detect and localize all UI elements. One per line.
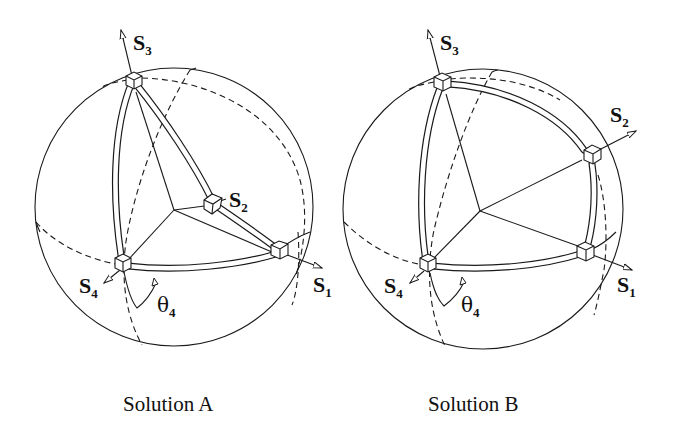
label-s2: S2 [610, 102, 629, 130]
axis-s4 [104, 270, 120, 283]
link-s3-s4 [115, 82, 132, 262]
figure-solution-b: S3 S2 S1 S4 θ4 [343, 30, 636, 349]
label-s1: S1 [313, 272, 332, 300]
caption-solution-b: Solution B [428, 392, 518, 417]
diagram-canvas: S3 S2 S1 S4 θ4 [0, 0, 673, 424]
radius-s4 [432, 211, 480, 260]
great-circle-dashed [344, 222, 425, 265]
axis-s1 [590, 254, 632, 270]
angle-arrow-theta4 [460, 277, 466, 285]
link-s4-s1 [128, 254, 276, 268]
radius-s3 [446, 94, 480, 211]
label-theta4: θ4 [461, 293, 480, 320]
joint-s2 [584, 145, 601, 164]
joint-s3 [126, 72, 142, 89]
caption-solution-a: Solution A [123, 392, 213, 417]
label-s2: S2 [229, 187, 248, 215]
label-s4: S4 [79, 273, 98, 301]
joint-s1 [577, 242, 594, 261]
label-s3: S3 [133, 30, 152, 58]
figure-solution-a: S3 S2 S1 S4 θ4 [35, 30, 332, 346]
angle-arc-theta4 [124, 272, 156, 308]
meridian-front [492, 70, 498, 72]
link-s3-s2 [136, 84, 212, 200]
radius-s2 [480, 160, 582, 211]
label-theta4: θ4 [157, 293, 176, 320]
joint-s1 [271, 241, 288, 259]
joint-s3 [434, 73, 451, 91]
axis-s4 [410, 271, 424, 283]
great-circle-dashed [36, 222, 122, 265]
joint-s4 [115, 254, 131, 272]
label-s1: S1 [617, 272, 636, 300]
angle-arc-theta4 [430, 273, 464, 306]
angle-arrow-theta4 [152, 278, 158, 286]
axis-s3 [121, 30, 133, 80]
radius-s1 [480, 211, 578, 246]
radius-s4 [128, 210, 174, 260]
link-s2-s1 [588, 164, 594, 244]
label-s3: S3 [440, 30, 459, 58]
joint-s4 [420, 254, 436, 272]
label-s4: S4 [384, 273, 403, 301]
link-s3-s4 [422, 88, 440, 262]
link-s4-s1 [432, 254, 580, 268]
